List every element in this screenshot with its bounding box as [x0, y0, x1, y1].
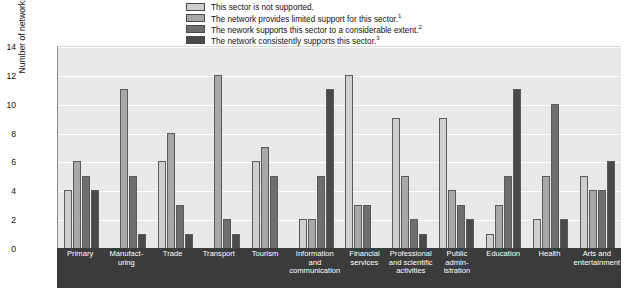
- bar[interactable]: [120, 89, 128, 248]
- bar[interactable]: [252, 161, 260, 248]
- legend-item-label: The nework supports this sector to a con…: [211, 23, 422, 35]
- bar[interactable]: [392, 118, 400, 248]
- x-axis-category-label: Transport: [196, 248, 242, 288]
- x-axis-category-label: Trade: [150, 248, 196, 288]
- y-axis-tick-label: 6: [0, 157, 16, 167]
- bar[interactable]: [401, 176, 409, 248]
- bar-group: [246, 47, 293, 248]
- bar[interactable]: [167, 133, 175, 248]
- x-axis-category-label: Manufact-uring: [103, 248, 149, 288]
- bar[interactable]: [299, 219, 307, 248]
- bar[interactable]: [326, 89, 334, 248]
- bar[interactable]: [354, 205, 362, 248]
- legend-item[interactable]: The nework supports this sector to a con…: [186, 24, 486, 34]
- bar[interactable]: [185, 234, 193, 248]
- bar-group: [527, 47, 574, 248]
- bar-chart-figure: This sector is not supported.The network…: [0, 0, 625, 288]
- bar-group: [574, 47, 621, 248]
- bar[interactable]: [419, 234, 427, 248]
- bar-group: [480, 47, 527, 248]
- bar[interactable]: [232, 234, 240, 248]
- bar[interactable]: [542, 176, 550, 248]
- x-axis-category-label: Primary: [57, 248, 103, 288]
- bar[interactable]: [270, 176, 278, 248]
- bar[interactable]: [223, 219, 231, 248]
- bar-group: [105, 47, 152, 248]
- y-axis-tick-label: 8: [0, 129, 16, 139]
- bar[interactable]: [158, 161, 166, 248]
- bar[interactable]: [82, 176, 90, 248]
- bar[interactable]: [589, 190, 597, 248]
- x-axis-category-label: Tourism: [242, 248, 288, 288]
- x-axis-category-label: Financialservices: [341, 248, 387, 288]
- bar[interactable]: [64, 190, 72, 248]
- x-axis-category-label: Informationandcommunication: [288, 248, 341, 288]
- x-axis-category-label: Publicadmin-istration: [434, 248, 480, 288]
- bar[interactable]: [91, 190, 99, 248]
- legend-swatch-icon: [186, 14, 205, 22]
- bar[interactable]: [261, 147, 269, 248]
- bar[interactable]: [73, 161, 81, 248]
- x-axis-category-label: Health: [526, 248, 572, 288]
- legend-swatch-icon: [186, 36, 205, 44]
- bar-groups: [58, 47, 621, 248]
- x-axis-category-label: Professionaland scientificactivities: [388, 248, 434, 288]
- bar-group: [433, 47, 480, 248]
- legend-footnote-marker: 1: [398, 13, 401, 19]
- x-axis-category-label: Arts andentertainment: [573, 248, 621, 288]
- bar[interactable]: [363, 205, 371, 248]
- y-axis-tick-label: 10: [0, 100, 16, 110]
- bar[interactable]: [504, 176, 512, 248]
- bar[interactable]: [448, 190, 456, 248]
- bar[interactable]: [466, 219, 474, 248]
- x-axis-category-band: PrimaryManufact-uringTradeTransportTouri…: [57, 248, 621, 288]
- chart-legend: This sector is not supported.The network…: [186, 2, 486, 45]
- bar[interactable]: [457, 205, 465, 248]
- bar[interactable]: [486, 234, 494, 248]
- legend-item[interactable]: This sector is not supported.: [186, 2, 486, 12]
- bar[interactable]: [214, 75, 222, 248]
- legend-item[interactable]: The network consistently supports this s…: [186, 35, 486, 45]
- bar[interactable]: [176, 205, 184, 248]
- bar[interactable]: [607, 161, 615, 248]
- bar-group: [58, 47, 105, 248]
- bar-group: [340, 47, 387, 248]
- bar[interactable]: [308, 219, 316, 248]
- legend-item-label: The network provides limited support for…: [211, 12, 401, 24]
- y-axis-tick-label: 4: [0, 186, 16, 196]
- bar[interactable]: [598, 190, 606, 248]
- y-axis-tick-label: 14: [0, 42, 16, 52]
- bar[interactable]: [551, 104, 559, 248]
- legend-footnote-marker: 3: [376, 35, 379, 41]
- bar[interactable]: [439, 118, 447, 248]
- y-axis-tick-label: 0: [0, 244, 16, 254]
- bar-group: [152, 47, 199, 248]
- bar[interactable]: [345, 75, 353, 248]
- bar[interactable]: [410, 219, 418, 248]
- bar[interactable]: [533, 219, 541, 248]
- legend-footnote-marker: 2: [419, 24, 422, 30]
- legend-item[interactable]: The network provides limited support for…: [186, 13, 486, 23]
- bar[interactable]: [495, 205, 503, 248]
- bar[interactable]: [560, 219, 568, 248]
- y-axis-tick-label: 12: [0, 71, 16, 81]
- bar-group: [386, 47, 433, 248]
- x-axis-category-label: Education: [480, 248, 526, 288]
- plot-area: Number of networks 14121086420: [57, 46, 621, 248]
- legend-item-label: The network consistently supports this s…: [211, 34, 380, 46]
- bar-group: [199, 47, 246, 248]
- bar-group: [293, 47, 340, 248]
- legend-swatch-icon: [186, 3, 205, 11]
- bar[interactable]: [129, 176, 137, 248]
- bar[interactable]: [513, 89, 521, 248]
- bar[interactable]: [317, 176, 325, 248]
- bar[interactable]: [580, 176, 588, 248]
- legend-item-label: This sector is not supported.: [211, 3, 314, 12]
- bar[interactable]: [138, 234, 146, 248]
- y-axis-tick-label: 2: [0, 215, 16, 225]
- y-axis-title: Number of networks: [17, 0, 27, 95]
- legend-swatch-icon: [186, 25, 205, 33]
